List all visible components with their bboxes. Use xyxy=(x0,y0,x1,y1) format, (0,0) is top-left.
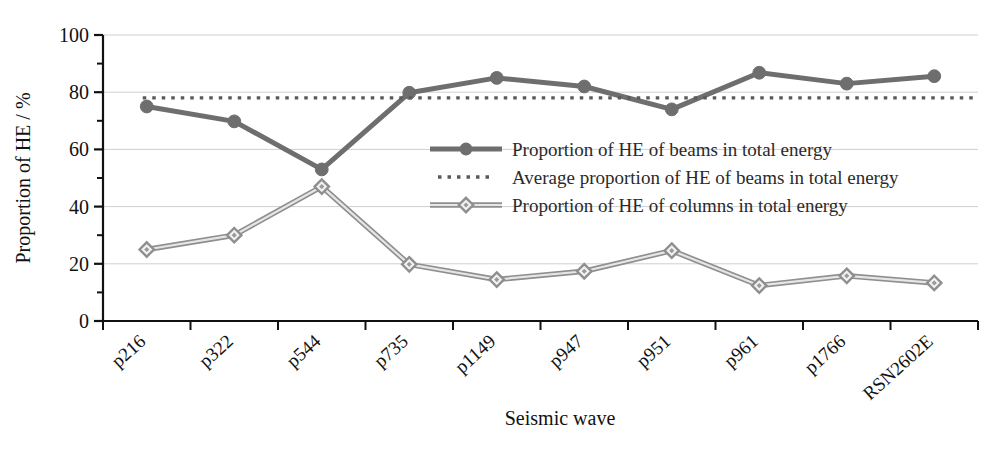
data-point-marker xyxy=(315,163,328,176)
y-axis: 020406080100 xyxy=(59,24,103,332)
x-axis-title: Seismic wave xyxy=(505,407,616,429)
x-axis-category-label: p961 xyxy=(720,330,762,371)
data-point-marker xyxy=(140,100,153,113)
chart-legend: Proportion of HE of beams in total energ… xyxy=(430,139,899,216)
x-axis-category-label: p216 xyxy=(107,330,149,371)
chart-container: 020406080100 p216p322p544p735p1149p947p9… xyxy=(0,0,1004,450)
y-axis-tick-label: 40 xyxy=(69,196,89,218)
y-axis-tick-label: 0 xyxy=(79,310,89,332)
x-axis-category-label: p322 xyxy=(195,330,237,371)
y-axis-title: Proportion of HE / % xyxy=(12,92,35,263)
data-point-marker xyxy=(228,115,241,128)
legend-entry-label: Proportion of HE of columns in total ene… xyxy=(512,195,848,216)
data-point-marker xyxy=(578,80,591,93)
data-point-marker xyxy=(753,66,766,79)
y-axis-tick-label: 80 xyxy=(69,81,89,103)
x-axis-category-label: RSN2602E xyxy=(859,330,937,404)
x-axis-category-label: p735 xyxy=(370,330,412,371)
y-axis-tick-label: 20 xyxy=(69,253,89,275)
line-chart: 020406080100 p216p322p544p735p1149p947p9… xyxy=(0,0,1004,450)
x-axis-category-label: p1149 xyxy=(451,330,500,377)
data-point-marker xyxy=(490,72,503,85)
legend-entry-label: Average proportion of HE of beams in tot… xyxy=(512,167,899,188)
x-axis-category-label: p1766 xyxy=(800,330,849,377)
y-axis-tick-label: 100 xyxy=(59,24,89,46)
x-axis: p216p322p544p735p1149p947p951p961p1766RS… xyxy=(103,321,978,404)
legend-symbol-marker xyxy=(460,143,473,156)
x-axis-category-label: p951 xyxy=(632,330,674,371)
x-axis-category-label: p947 xyxy=(545,330,587,371)
data-point-marker xyxy=(840,77,853,90)
data-point-marker xyxy=(665,103,678,116)
legend-entry-label: Proportion of HE of beams in total energ… xyxy=(512,139,832,160)
y-axis-tick-label: 60 xyxy=(69,138,89,160)
data-point-marker xyxy=(928,70,941,83)
x-axis-category-label: p544 xyxy=(282,330,325,371)
